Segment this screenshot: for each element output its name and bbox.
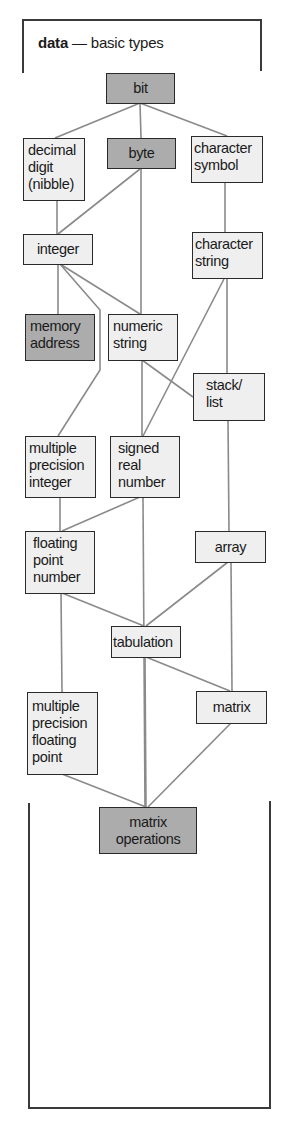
frame-top-right-edge bbox=[260, 19, 262, 71]
diagram-title: data — basic types bbox=[38, 34, 164, 51]
node-label-line: matrix bbox=[129, 814, 167, 831]
frame-top-edge bbox=[22, 19, 262, 21]
node-label-line: numeric bbox=[113, 318, 174, 335]
node-label-line: operations bbox=[116, 831, 181, 848]
node-label-line: address bbox=[30, 335, 91, 352]
node-label-line: signed bbox=[118, 440, 176, 457]
node-label-line: number bbox=[118, 474, 176, 491]
node-signed-real-number: signed real number bbox=[110, 436, 180, 498]
node-label: matrix bbox=[213, 699, 251, 716]
node-label-line: precision bbox=[32, 715, 94, 732]
frame-top-left-edge bbox=[22, 19, 24, 73]
node-label-line: decimal bbox=[28, 142, 81, 159]
node-label-line: string bbox=[195, 253, 259, 270]
node-label-line: multiple bbox=[32, 698, 94, 715]
node-label-line: string bbox=[113, 335, 174, 352]
node-character-string: character string bbox=[192, 232, 263, 279]
node-label: integer bbox=[37, 241, 79, 258]
node-label-line: precision bbox=[29, 457, 92, 474]
node-label-line: digit bbox=[28, 159, 81, 176]
node-label: tabulation bbox=[113, 634, 173, 651]
node-label-line: symbol bbox=[194, 157, 259, 174]
node-bit: bit bbox=[106, 73, 175, 104]
node-stack-list: stack/ list bbox=[193, 373, 265, 421]
node-label-line: point bbox=[32, 749, 94, 766]
node-label-line: multiple bbox=[29, 440, 92, 457]
frame-bottom-edge bbox=[28, 1107, 271, 1109]
node-integer: integer bbox=[23, 234, 93, 265]
node-label-line: memory bbox=[30, 318, 91, 335]
node-label-line: list bbox=[206, 394, 261, 411]
node-label-line: stack/ bbox=[206, 377, 261, 394]
node-label-line: integer bbox=[29, 474, 92, 491]
node-floating-point-number: floating point number bbox=[25, 531, 95, 594]
node-label-line: point bbox=[33, 552, 91, 569]
node-memory-address: memory address bbox=[25, 314, 95, 361]
title-keyword: data bbox=[38, 34, 68, 51]
data-types-diagram: data — basic types bit decimal digit (ni… bbox=[0, 0, 281, 1124]
node-label-line: number bbox=[33, 569, 91, 586]
frame-bottom-left-edge bbox=[28, 803, 30, 1109]
node-label: bit bbox=[133, 80, 147, 97]
node-character-symbol: character symbol bbox=[191, 136, 263, 183]
node-label-line: (nibble) bbox=[28, 176, 81, 193]
node-tabulation: tabulation bbox=[111, 626, 181, 658]
node-label: byte bbox=[128, 145, 154, 162]
node-matrix: matrix bbox=[196, 691, 267, 724]
node-label-line: character bbox=[194, 140, 259, 157]
node-label-line: floating bbox=[32, 732, 94, 749]
node-array: array bbox=[195, 531, 266, 563]
title-subtitle: — basic types bbox=[68, 34, 164, 51]
node-label-line: real bbox=[118, 457, 176, 474]
node-byte: byte bbox=[107, 138, 176, 169]
frame-bottom-right-edge bbox=[269, 801, 271, 1108]
node-matrix-operations: matrix operations bbox=[99, 807, 197, 854]
node-label-line: character bbox=[195, 236, 259, 253]
node-label-line: floating bbox=[33, 535, 91, 552]
node-label: array bbox=[215, 539, 247, 556]
node-multiple-precision-integer: multiple precision integer bbox=[25, 436, 96, 498]
node-multiple-precision-floating-point: multiple precision floating point bbox=[27, 692, 98, 775]
node-numeric-string: numeric string bbox=[108, 314, 178, 361]
node-decimal-digit: decimal digit (nibble) bbox=[23, 138, 85, 201]
